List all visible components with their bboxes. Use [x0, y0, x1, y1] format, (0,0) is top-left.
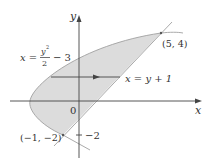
line-equation-label: x = y + 1: [125, 73, 172, 84]
origin-label: 0: [70, 105, 76, 116]
parabola-eq-lhs: x =: [20, 52, 37, 63]
point-5-4: [160, 32, 162, 34]
point-neg1-neg2: [62, 134, 64, 136]
parabola-eq-exponent: 2: [46, 44, 49, 50]
y-axis-arrow-icon: [77, 15, 82, 22]
parabola-eq-denominator: 2: [42, 59, 47, 68]
x-axis-arrow-icon: [195, 99, 202, 104]
point-label-5-4: (5, 4): [162, 38, 188, 49]
point-label-neg1-neg2: (−1, −2): [20, 132, 61, 143]
y-tick-label-minus-2: −2: [85, 130, 100, 141]
shaded-region: [30, 33, 161, 135]
y-axis-label: y: [69, 10, 77, 23]
parabola-eq-rest: − 3: [53, 52, 71, 63]
x-axis-label: x: [195, 104, 202, 117]
